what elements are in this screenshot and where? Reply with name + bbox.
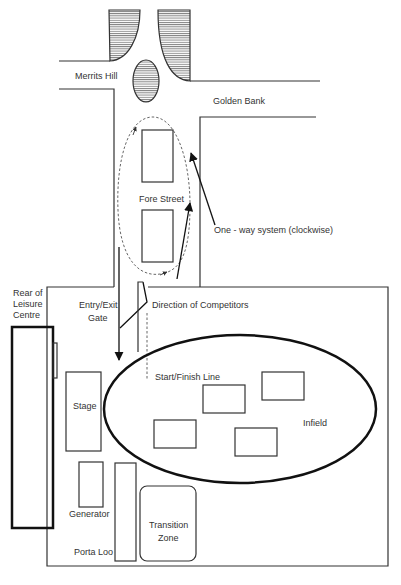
label-transition-1: Transition xyxy=(149,520,188,530)
one-way-loop-arrow-bottom xyxy=(160,272,167,275)
fore-street-block-lower xyxy=(142,210,173,262)
junction-corner-left xyxy=(109,10,140,61)
porta-loo-box xyxy=(115,463,136,561)
label-stage: Stage xyxy=(73,401,97,411)
label-golden-bank: Golden Bank xyxy=(213,96,266,106)
one-way-pointer-arrow xyxy=(191,153,215,225)
label-leisure-2: Leisure xyxy=(13,299,43,309)
fore-street-block-upper xyxy=(142,130,173,182)
gate-line xyxy=(138,282,143,352)
label-transition-2: Zone xyxy=(158,533,179,543)
infield-block-2 xyxy=(262,372,304,400)
leisure-centre-annex xyxy=(53,343,57,378)
infield-block-1 xyxy=(203,385,245,413)
label-start-finish: Start/Finish Line xyxy=(155,372,220,382)
label-infield: Infield xyxy=(303,418,327,428)
label-generator: Generator xyxy=(69,509,110,519)
label-merrits-hill: Merrits Hill xyxy=(75,71,118,81)
roundabout-island xyxy=(133,60,159,102)
competitor-pointer-line xyxy=(120,282,147,328)
site-map: Merrits Hill Golden Bank Fore Street One… xyxy=(0,0,401,585)
label-entry-exit-2: Gate xyxy=(88,313,108,323)
junction-corner-right xyxy=(158,10,190,81)
generator-box xyxy=(79,462,103,507)
stage-box xyxy=(66,372,101,451)
infield-block-3 xyxy=(154,420,196,448)
label-leisure-1: Rear of xyxy=(13,288,43,298)
merrits-hill-lower-edge xyxy=(59,89,114,287)
golden-bank-lower-edge xyxy=(200,117,316,287)
label-direction-competitors: Direction of Competitors xyxy=(152,300,249,310)
label-fore-street: Fore Street xyxy=(139,194,185,204)
label-entry-exit-1: Entry/Exit xyxy=(79,300,118,310)
label-leisure-3: Centre xyxy=(13,310,40,320)
site-boundary xyxy=(47,287,388,566)
infield-track xyxy=(104,335,376,483)
label-porta-loo: Porta Loo xyxy=(74,547,113,557)
infield-block-4 xyxy=(235,428,277,456)
competitor-direction-arrow xyxy=(177,203,190,279)
label-one-way: One - way system (clockwise) xyxy=(214,225,333,235)
